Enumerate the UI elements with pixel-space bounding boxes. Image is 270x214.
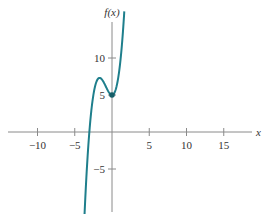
x-tick-label: 5	[147, 139, 153, 151]
x-tick-label: −5	[69, 139, 81, 151]
y-axis: 105−5 f(x)	[93, 6, 120, 212]
y-tick-label: −5	[93, 163, 105, 175]
local-min-point	[109, 92, 115, 98]
x-tick-label: 15	[218, 139, 230, 151]
y-axis-label: f(x)	[104, 6, 120, 19]
y-tick-label: 10	[94, 52, 106, 64]
y-tick-label: 5	[100, 89, 106, 101]
x-axis: −10−551015 x	[8, 126, 261, 151]
x-tick-label: 10	[181, 139, 193, 151]
x-tick-label: −10	[29, 139, 47, 151]
x-axis-label: x	[255, 126, 261, 138]
function-curve	[84, 11, 124, 214]
chart: −10−551015 x 105−5 f(x)	[0, 0, 270, 214]
